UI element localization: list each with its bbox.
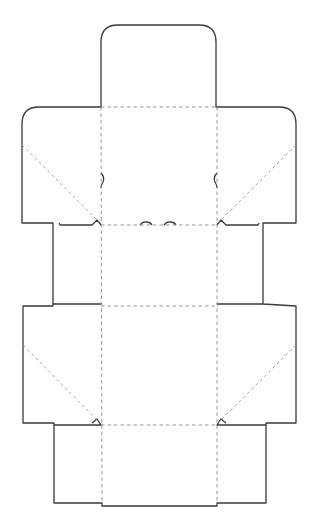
diag-fold-top-left	[22, 145, 99, 222]
diag-fold-mid-right	[219, 345, 296, 422]
center-lock-tab-2	[164, 222, 176, 225]
box-dieline-diagram	[0, 0, 320, 529]
right-lower-notch	[217, 419, 266, 425]
cut-outline	[22, 25, 296, 506]
right-flap-notch	[217, 220, 259, 225]
left-flap-notch	[59, 220, 101, 225]
diag-fold-top-right	[219, 145, 296, 222]
center-lock-tab-1	[140, 222, 152, 225]
diag-fold-mid-left	[23, 345, 99, 422]
left-lower-notch	[54, 419, 101, 425]
fold-left-vertical	[101, 107, 102, 503]
